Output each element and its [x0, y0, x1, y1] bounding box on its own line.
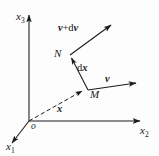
- axis-label-x2: x2: [140, 125, 149, 136]
- position-vector-label: x: [57, 104, 62, 115]
- axis-label-x1: x1: [6, 141, 15, 152]
- vector-field-diagram: x3 x2 x1 o M N x dx v v+dv: [0, 0, 159, 156]
- axis-label-x3: x3: [16, 11, 25, 22]
- point-label-N: N: [54, 48, 61, 59]
- velocity-vector-N-label: v+dv: [58, 23, 78, 34]
- displacement-vector-label: dx: [77, 63, 88, 74]
- velocity-vector-M-label: v: [105, 74, 110, 85]
- axis-x1-line: [12, 121, 29, 143]
- position-vector-line: [29, 91, 82, 121]
- origin-label: o: [31, 122, 36, 132]
- point-label-M: M: [90, 89, 99, 100]
